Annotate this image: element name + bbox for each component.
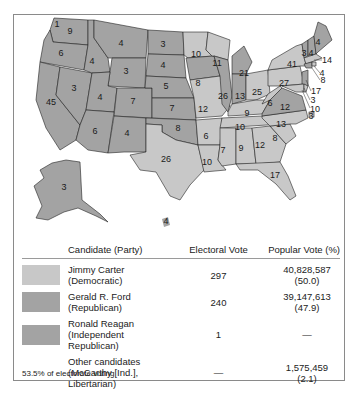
svg-text:6: 6 xyxy=(267,98,272,108)
svg-text:25: 25 xyxy=(252,87,262,97)
popular-vote-cell: 39,147,613 (47.9) xyxy=(260,291,340,313)
state-ri xyxy=(312,62,316,66)
svg-text:9: 9 xyxy=(244,108,249,118)
candidate-party: (Independent Republican) xyxy=(68,329,177,351)
svg-text:10: 10 xyxy=(235,122,245,132)
electoral-vote-cell: 1 xyxy=(177,329,260,340)
candidate-name: Other candidates xyxy=(68,356,177,367)
svg-text:5: 5 xyxy=(163,81,168,91)
popular-count: 40,828,587 xyxy=(274,264,340,275)
table-header: Candidate (Party) Electoral Vote Popular… xyxy=(22,240,340,259)
svg-text:7: 7 xyxy=(169,103,174,113)
state-nj xyxy=(302,70,308,86)
svg-text:8: 8 xyxy=(175,123,180,133)
svg-text:7: 7 xyxy=(220,145,225,155)
popular-count: 1,575,459 xyxy=(274,362,340,373)
svg-text:12: 12 xyxy=(255,140,265,150)
svg-text:1: 1 xyxy=(54,19,59,29)
electoral-map: 1 9 6 45 3 4 4 3 4 7 6 4 3 4 5 7 8 26 10… xyxy=(0,0,357,240)
svg-text:26: 26 xyxy=(218,91,228,101)
state-sd xyxy=(146,54,186,78)
us-map-svg: 1 9 6 45 3 4 4 3 4 7 6 4 3 4 5 7 8 26 10… xyxy=(0,0,357,240)
svg-text:3: 3 xyxy=(308,111,313,121)
state-ar xyxy=(196,118,222,145)
candidate-party-continued: Libertarian) xyxy=(68,378,177,389)
svg-text:4: 4 xyxy=(89,56,94,66)
svg-text:10: 10 xyxy=(191,49,201,59)
svg-text:3: 3 xyxy=(301,48,306,58)
svg-text:6: 6 xyxy=(92,126,97,136)
svg-text:4: 4 xyxy=(124,128,129,138)
candidate-cell: Jimmy Carter (Democratic) xyxy=(68,264,177,286)
svg-text:10: 10 xyxy=(202,157,212,167)
candidate-name: Ronald Reagan xyxy=(68,318,177,329)
candidate-cell: Gerald R. Ford (Republican) xyxy=(68,291,177,313)
popular-vote-cell: — xyxy=(260,329,340,340)
svg-text:14: 14 xyxy=(322,55,332,65)
svg-text:21: 21 xyxy=(239,68,249,78)
popular-percent: (50.0) xyxy=(274,275,340,286)
legend-swatch-carter xyxy=(22,265,60,285)
state-nd xyxy=(148,30,184,55)
svg-text:9: 9 xyxy=(67,26,72,36)
popular-percent: (47.9) xyxy=(274,302,340,313)
legend-swatch-ford xyxy=(22,292,60,312)
svg-text:6: 6 xyxy=(58,48,63,58)
svg-text:3: 3 xyxy=(123,66,128,76)
popular-percent: (2.1) xyxy=(274,373,340,384)
table-row-carter: Jimmy Carter (Democratic) 297 40,828,587… xyxy=(22,264,340,286)
candidate-party: (Democratic) xyxy=(68,275,177,286)
legend-swatch-reagan xyxy=(22,325,60,345)
svg-text:13: 13 xyxy=(235,91,245,101)
electoral-vote-cell: 297 xyxy=(177,270,260,281)
turnout-footnote: 53.5% of electorate voting xyxy=(22,369,115,378)
svg-text:7: 7 xyxy=(130,96,135,106)
svg-text:8: 8 xyxy=(320,75,325,85)
electoral-vote-cell: 240 xyxy=(177,297,260,308)
svg-text:12: 12 xyxy=(198,104,208,114)
table-row-ford: Gerald R. Ford (Republican) 240 39,147,6… xyxy=(22,291,340,313)
header-candidate: Candidate (Party) xyxy=(22,244,177,255)
svg-text:4: 4 xyxy=(118,38,123,48)
candidate-party: (Republican) xyxy=(68,302,177,313)
svg-text:11: 11 xyxy=(212,58,221,68)
svg-text:8: 8 xyxy=(195,78,200,88)
svg-text:3: 3 xyxy=(71,83,76,93)
svg-text:27: 27 xyxy=(279,78,289,88)
svg-text:6: 6 xyxy=(203,131,208,141)
svg-text:4: 4 xyxy=(97,92,102,102)
popular-count: 39,147,613 xyxy=(274,291,340,302)
svg-text:8: 8 xyxy=(272,133,277,143)
svg-text:3: 3 xyxy=(61,182,66,192)
state-fl xyxy=(236,162,296,200)
svg-text:4: 4 xyxy=(160,60,165,70)
table-row-reagan: Ronald Reagan (Independent Republican) 1… xyxy=(22,318,340,351)
svg-text:12: 12 xyxy=(280,102,290,112)
candidate-cell: Ronald Reagan (Independent Republican) xyxy=(68,318,177,351)
svg-text:9: 9 xyxy=(238,143,243,153)
svg-text:3: 3 xyxy=(160,39,165,49)
popular-count: — xyxy=(274,329,340,340)
state-ak xyxy=(34,160,108,222)
header-electoral-vote: Electoral Vote xyxy=(177,244,260,255)
candidate-name: Jimmy Carter xyxy=(68,264,177,275)
svg-text:17: 17 xyxy=(270,170,280,180)
svg-text:45: 45 xyxy=(46,97,56,107)
electoral-vote-cell: — xyxy=(177,367,260,378)
header-popular-vote: Popular Vote (%) xyxy=(260,244,340,255)
svg-text:4: 4 xyxy=(315,37,320,47)
svg-text:41: 41 xyxy=(287,59,297,69)
candidate-name: Gerald R. Ford xyxy=(68,291,177,302)
svg-text:4: 4 xyxy=(163,216,168,226)
popular-vote-cell: 40,828,587 (50.0) xyxy=(260,264,340,286)
state-ne xyxy=(145,76,194,98)
svg-text:13: 13 xyxy=(276,119,286,129)
popular-vote-cell: 1,575,459 (2.1) xyxy=(260,362,340,384)
results-table: Candidate (Party) Electoral Vote Popular… xyxy=(22,240,340,389)
svg-text:4: 4 xyxy=(308,48,313,58)
svg-text:26: 26 xyxy=(161,154,171,164)
